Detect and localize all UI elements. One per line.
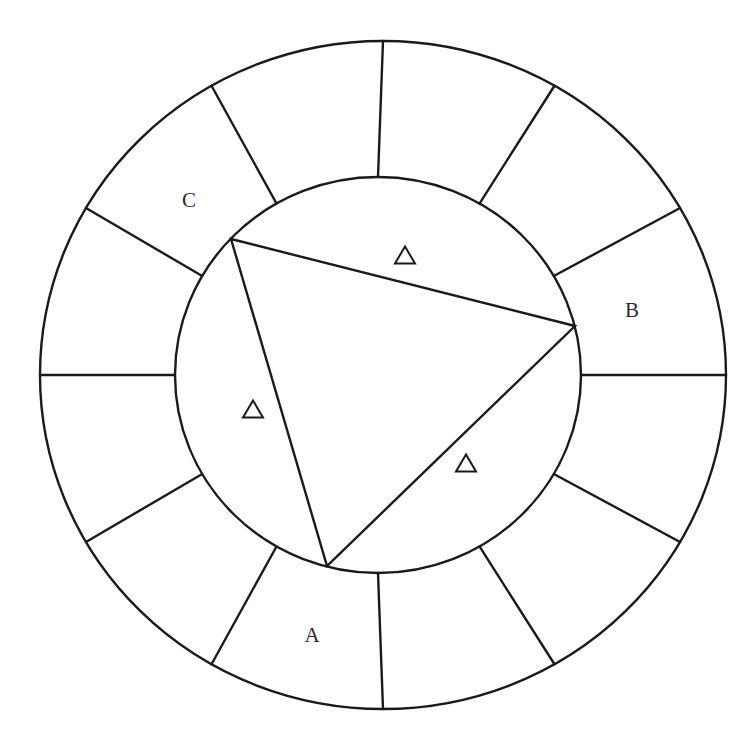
label-b: B	[625, 298, 639, 322]
inner-circle	[175, 177, 581, 573]
spoke-line	[480, 86, 555, 204]
label-c: C	[182, 188, 196, 212]
spoke-line	[212, 546, 277, 664]
spoke-line	[378, 41, 383, 177]
spoke-line	[554, 208, 680, 276]
spoke-line	[480, 546, 555, 664]
spoke-line	[86, 474, 202, 542]
triangle-marker-icon	[395, 247, 415, 264]
spoke-line	[212, 86, 277, 204]
circular-diagram: C B A	[0, 0, 755, 732]
triangle-marker-icon	[456, 455, 476, 472]
ring-spokes	[40, 41, 726, 709]
label-a: A	[304, 623, 320, 647]
triangle-markers	[243, 247, 476, 472]
triangle-marker-icon	[243, 401, 263, 418]
inscribed-triangle	[231, 239, 575, 566]
spoke-line	[378, 573, 383, 709]
diagram-canvas: C B A	[0, 0, 755, 732]
spoke-line	[86, 208, 202, 276]
spoke-line	[554, 474, 680, 542]
